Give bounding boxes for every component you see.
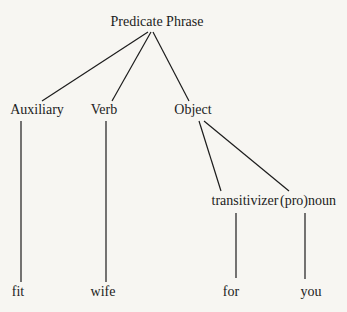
edge-root-object [153,32,189,101]
node-transitivizer: transitivizer [212,193,279,209]
leaf-fit: fit [12,284,24,300]
tree-edges [0,0,347,312]
leaf-you: you [301,284,322,300]
node-object: Object [174,102,211,118]
node-verb: Verb [91,102,117,118]
node-predicate-phrase: Predicate Phrase [111,14,204,30]
leaf-wife: wife [91,284,116,300]
node-auxiliary: Auxiliary [10,102,64,118]
edge-object-pronoun [204,121,289,191]
edge-object-transitivizer [199,121,221,191]
node-pronoun: (pro)noun [280,193,336,209]
leaf-for: for [223,284,239,300]
